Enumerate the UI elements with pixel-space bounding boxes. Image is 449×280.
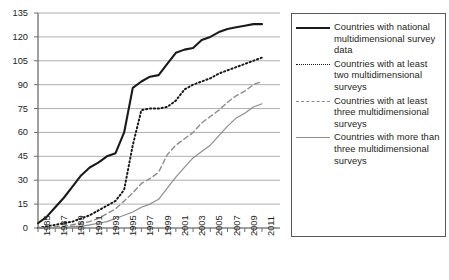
- y-axis-tick-label: 30: [2, 175, 28, 185]
- x-axis-tick-label: 1991: [94, 215, 104, 236]
- legend-line-swatch-dotted: [296, 58, 330, 71]
- line-chart-svg: [0, 0, 290, 280]
- legend-line-swatch-dashed: [296, 95, 330, 108]
- y-axis-tick-label: 135: [2, 8, 28, 18]
- x-axis-tick-label: 1989: [76, 215, 86, 236]
- legend-item-label: Countries with at least three multidimen…: [334, 95, 441, 130]
- x-axis-tick-label: 2001: [180, 215, 190, 236]
- series-line: [38, 24, 262, 223]
- chart-legend: Countries with national multidimensional…: [291, 13, 446, 237]
- series-line: [38, 58, 262, 228]
- grid-lines: [38, 13, 280, 228]
- legend-line-swatch-solid-thin: [296, 131, 330, 144]
- legend-item-label: Countries with national multidimensional…: [334, 21, 441, 56]
- y-axis-tick-label: 45: [2, 151, 28, 161]
- x-axis-tick-label: 1995: [128, 215, 138, 236]
- legend-item: Countries with at least three multidimen…: [296, 95, 441, 130]
- y-axis-tick-label: 90: [2, 80, 28, 90]
- legend-item-label: Countries with at least two multidimensi…: [334, 58, 441, 93]
- legend-item: Countries with more than three multidime…: [296, 131, 441, 166]
- x-axis-tick-label: 1987: [59, 215, 69, 236]
- x-axis-tick-label: 1999: [163, 215, 173, 236]
- x-axis-tick-label: 2009: [249, 215, 259, 236]
- x-axis-tick-label: 2007: [232, 215, 242, 236]
- y-axis-tick-label: 15: [2, 199, 28, 209]
- y-axis-tick-label: 105: [2, 56, 28, 66]
- y-axis-tick-label: 60: [2, 127, 28, 137]
- chart-figure: 0153045607590105120135 19851987198919911…: [0, 0, 449, 280]
- plot-area: 0153045607590105120135 19851987198919911…: [0, 0, 290, 280]
- series-line: [38, 104, 262, 228]
- x-axis-tick-label: 2005: [214, 215, 224, 236]
- series-line: [38, 81, 262, 228]
- legend-line-swatch-solid-thick: [296, 21, 330, 34]
- legend-item: Countries with at least two multidimensi…: [296, 58, 441, 93]
- legend-item-label: Countries with more than three multidime…: [334, 131, 441, 166]
- y-axis-tick-label: 120: [2, 32, 28, 42]
- y-axis-tick-label: 75: [2, 104, 28, 114]
- x-axis-tick-label: 1993: [111, 215, 121, 236]
- x-axis-tick-label: 1997: [145, 215, 155, 236]
- x-axis-tick-label: 2011: [266, 216, 276, 236]
- x-axis-tick-label: 1985: [42, 215, 52, 236]
- legend-item: Countries with national multidimensional…: [296, 21, 441, 56]
- y-axis-tick-label: 0: [2, 223, 28, 233]
- x-axis-tick-label: 2003: [197, 215, 207, 236]
